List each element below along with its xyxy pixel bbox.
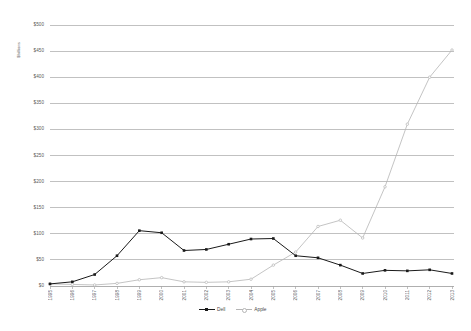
x-tick-label: 2011 [405, 290, 410, 300]
y-tick-label: $250 [18, 153, 44, 158]
legend-label-dell: Dell [217, 307, 225, 312]
data-point-marker [361, 237, 364, 240]
data-point-marker [183, 249, 186, 252]
data-point-marker [339, 264, 342, 267]
data-point-marker [71, 281, 74, 284]
data-point-marker [428, 269, 431, 272]
chart-plot-area [0, 0, 471, 331]
x-tick-label: 2003 [226, 290, 231, 300]
data-point-marker [71, 283, 74, 286]
y-tick-label: $300 [18, 126, 44, 131]
data-point-marker [250, 278, 253, 281]
x-tick-label: 2013 [450, 290, 455, 300]
legend-entry-dell[interactable]: Dell [199, 307, 225, 312]
data-point-marker [406, 123, 409, 126]
x-tick-label: 2009 [360, 290, 365, 300]
x-tick-label: 1996 [70, 290, 75, 300]
x-tick-label: 2001 [182, 290, 187, 300]
data-point-marker [317, 225, 320, 228]
x-tick-label: 2010 [383, 290, 388, 300]
x-tick-label: 1999 [137, 290, 142, 300]
data-point-marker [272, 264, 275, 267]
data-point-marker [250, 238, 253, 241]
data-point-marker [317, 257, 320, 260]
data-point-marker [339, 219, 342, 222]
data-point-marker [49, 283, 52, 286]
x-tick-label: 1995 [48, 290, 53, 300]
data-point-marker [160, 231, 163, 234]
data-point-marker [294, 254, 297, 257]
y-tick-label: $0 [18, 283, 44, 288]
y-tick-label: $150 [18, 205, 44, 210]
data-point-marker [116, 282, 119, 285]
x-tick-label: 2000 [159, 290, 164, 300]
data-point-marker [294, 251, 297, 254]
y-tick-label: $200 [18, 179, 44, 184]
x-tick-label: 1997 [92, 290, 97, 300]
data-point-marker [160, 276, 163, 279]
x-tick-label: 2008 [338, 290, 343, 300]
legend-label-apple: Apple [254, 307, 266, 312]
x-tick-label: 2007 [316, 290, 321, 300]
gridlines-group [50, 25, 454, 286]
y-tick-label: $100 [18, 231, 44, 236]
data-point-marker [361, 272, 364, 275]
chart-container: $0$50$100$150$200$250$300$350$400$450$50… [0, 0, 471, 331]
y-tick-label: $50 [18, 257, 44, 262]
data-point-marker [138, 229, 141, 232]
data-point-marker [451, 272, 454, 275]
x-tick-label: 2004 [249, 290, 254, 300]
x-tick-label: 1998 [115, 290, 120, 300]
data-point-marker [428, 76, 431, 79]
y-tick-label: $500 [18, 22, 44, 27]
legend-swatch-dell [199, 307, 215, 312]
series-line-apple [49, 49, 454, 286]
data-point-marker [138, 278, 141, 281]
data-point-marker [116, 254, 119, 257]
data-point-marker [451, 49, 454, 52]
data-point-marker [205, 281, 208, 284]
y-tick-label: $400 [18, 74, 44, 79]
legend-swatch-apple [236, 307, 252, 312]
y-axis-title: $billions [13, 30, 25, 70]
data-point-marker [406, 270, 409, 273]
x-tick-label: 2005 [271, 290, 276, 300]
x-tick-label: 2006 [293, 290, 298, 300]
data-point-marker [93, 273, 96, 276]
legend-entry-apple[interactable]: Apple [236, 307, 266, 312]
data-point-marker [384, 269, 387, 272]
data-point-marker [227, 281, 230, 284]
chart-legend: Dell Apple [199, 307, 267, 312]
data-point-marker [205, 248, 208, 251]
x-tick-label: 2002 [204, 290, 209, 300]
data-point-marker [93, 284, 96, 287]
data-point-marker [272, 237, 275, 240]
series-line-dell [49, 229, 454, 285]
data-point-marker [384, 186, 387, 189]
series-polyline [50, 50, 452, 285]
x-tick-label: 2012 [427, 290, 432, 300]
data-point-marker [183, 281, 186, 284]
data-point-marker [227, 243, 230, 246]
y-tick-label: $350 [18, 100, 44, 105]
